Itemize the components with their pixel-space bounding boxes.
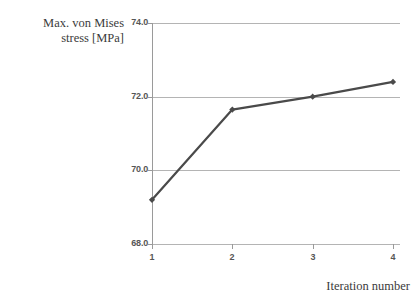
y-tick-label-68: 68.0 [108, 238, 148, 248]
data-point-3 [310, 94, 316, 100]
x-tick-mark-4 [393, 244, 394, 249]
x-tick-label-3: 3 [301, 252, 325, 262]
y-axis-title-line-2: stress [MPa] [61, 31, 124, 45]
x-tick-label-2: 2 [220, 252, 244, 262]
x-axis-title: Iteration number [326, 279, 410, 294]
x-tick-mark-1 [152, 244, 153, 249]
data-point-4 [390, 79, 396, 85]
plot-area [152, 23, 400, 244]
y-tick-label-74: 74.0 [108, 17, 148, 27]
chart-figure: Max. von Misesstress [MPa] 74.0 72.0 70.… [0, 0, 418, 307]
series-markers [149, 79, 396, 203]
y-axis-title: Max. von Misesstress [MPa] [6, 16, 124, 46]
x-tick-mark-2 [232, 244, 233, 249]
series-polyline [152, 82, 393, 200]
y-tick-label-72: 72.0 [108, 91, 148, 101]
y-tick-label-70: 70.0 [108, 164, 148, 174]
x-tick-label-4: 4 [381, 252, 405, 262]
x-tick-label-1: 1 [140, 252, 164, 262]
series-line-chart [152, 23, 400, 244]
gridline-68 [152, 244, 400, 245]
x-tick-mark-3 [313, 244, 314, 249]
